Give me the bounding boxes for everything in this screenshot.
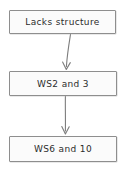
arrowhead-icon (63, 62, 71, 69)
arrowhead-icon (62, 127, 69, 134)
diagram-canvas: Lacks structure WS2 and 3 WS6 and 10 (0, 0, 124, 171)
node-ws6-and-10[interactable]: WS6 and 10 (9, 136, 117, 162)
node-ws2-and-3[interactable]: WS2 and 3 (9, 71, 117, 96)
node-ws2-and-3-label: WS2 and 3 (37, 78, 89, 89)
edge-ws2-and-3-to-ws6-and-10 (62, 97, 69, 135)
node-lacks-structure[interactable]: Lacks structure (9, 10, 116, 34)
node-ws6-and-10-label: WS6 and 10 (34, 144, 92, 155)
node-lacks-structure-label: Lacks structure (25, 17, 99, 28)
edge-lacks-structure-to-ws2-and-3 (63, 35, 71, 70)
